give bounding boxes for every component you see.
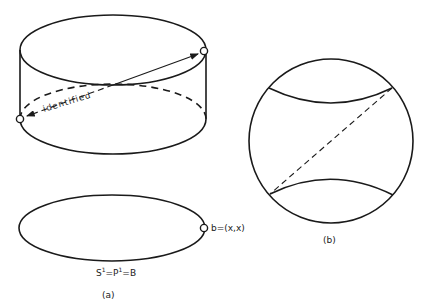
base-ellipse: [19, 195, 205, 261]
cylinder-figure: identified: [16, 15, 207, 154]
lower-geodesic-arc: [270, 179, 393, 195]
base-label-eq2: =B: [122, 268, 136, 278]
base-circle-figure: b=(x,x) S1=P1=B (a): [19, 195, 245, 300]
identification-arrow-right: [113, 54, 198, 85]
caption-b: (b): [323, 235, 336, 245]
upper-geodesic-arc: [269, 88, 392, 103]
caption-a: (a): [102, 290, 115, 300]
disk-figure: (b): [249, 59, 413, 245]
base-point-label: b=(x,x): [211, 223, 245, 233]
bottom-identified-point: [16, 115, 23, 122]
cylinder-bottom-front-arc: [20, 119, 206, 154]
top-identified-point: [200, 47, 207, 54]
diagonal-dashed-line: [270, 88, 392, 194]
base-space-label: S1=P1=B: [96, 266, 136, 278]
diagram-canvas: identified b=(x,x) S1=P1=B (a) (b): [0, 0, 422, 305]
cylinder-top-ellipse: [20, 15, 206, 85]
base-label-eq1: =P: [106, 268, 120, 278]
base-point: [200, 224, 207, 231]
